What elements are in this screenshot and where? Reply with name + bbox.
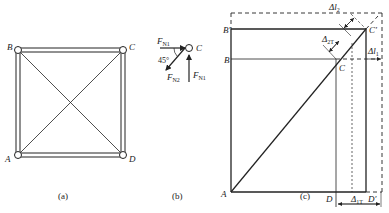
label-c-prime: C′ bbox=[369, 25, 378, 35]
label-a: A bbox=[220, 189, 227, 199]
figure-a-truss: B C A D (a) bbox=[4, 42, 136, 201]
joint-b bbox=[15, 47, 22, 54]
figure-b-free-body: C FN1 45° FN2 FN1 (b) bbox=[156, 36, 206, 201]
label-delta-2t: Δ2T bbox=[321, 34, 334, 45]
figure-c-deformation: B′ B A C C′ D D′ Δl2 Δ2T Δl1 Δ1T (c) bbox=[220, 2, 382, 207]
label-d: D bbox=[325, 194, 333, 204]
joint-c bbox=[120, 47, 127, 54]
label-d: D bbox=[128, 154, 136, 164]
label-fn2: FN2 bbox=[166, 72, 180, 83]
label-d-prime: D′ bbox=[367, 194, 377, 204]
label-angle: 45° bbox=[158, 56, 169, 65]
joint-a bbox=[15, 152, 22, 159]
label-delta-1t: Δ1T bbox=[350, 194, 363, 205]
label-c: C bbox=[129, 42, 136, 52]
label-fn1-up: FN1 bbox=[192, 70, 206, 81]
caption-c: (c) bbox=[300, 191, 310, 201]
truss-deformation-figure: B C A D (a) C FN1 45° FN2 FN1 (b) bbox=[0, 0, 389, 213]
label-delta-l2: Δl2 bbox=[328, 2, 340, 13]
label-b: B bbox=[7, 42, 13, 52]
label-c: C bbox=[196, 43, 203, 53]
label-c: C bbox=[339, 63, 346, 73]
label-b-prime: B′ bbox=[223, 25, 231, 35]
caption-a: (a) bbox=[58, 191, 68, 201]
label-fn1-left: FN1 bbox=[156, 36, 170, 47]
label-delta-l1: Δl1 bbox=[367, 46, 379, 57]
label-b: B bbox=[224, 55, 230, 65]
node-c bbox=[186, 45, 193, 52]
caption-b: (b) bbox=[172, 191, 183, 201]
joint-d bbox=[120, 152, 127, 159]
label-a: A bbox=[4, 154, 11, 164]
